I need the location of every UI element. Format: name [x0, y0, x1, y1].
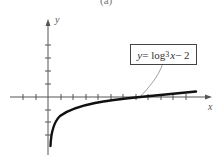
- chart-canvas: [0, 0, 224, 163]
- y-axis-label: y: [55, 14, 59, 25]
- y-axis-arrow-icon: [46, 19, 51, 26]
- annotation-leader-line: [140, 63, 163, 97]
- x-axis-arrow-icon: [205, 95, 212, 100]
- equation-log: = log: [142, 49, 165, 61]
- function-curve: [51, 92, 197, 147]
- equation-label-box: y = log 3 x − 2: [130, 44, 197, 65]
- equation-rest: − 2: [175, 49, 189, 61]
- equation-base: 3: [165, 50, 169, 59]
- x-axis-label: x: [208, 101, 212, 112]
